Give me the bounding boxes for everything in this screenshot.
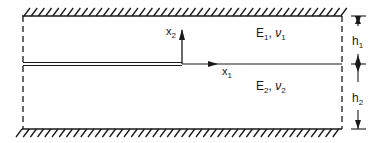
- bimaterial-diagram: x2 x1 E1, ν1 E2, ν2 h1 h2: [0, 0, 382, 143]
- material-top-label: E1, ν1: [256, 26, 286, 42]
- bottom-hatch-marks: [16, 129, 339, 137]
- x1-arrow-icon: [208, 61, 218, 67]
- x2-label: x2: [166, 25, 177, 40]
- top-hatch-marks: [24, 8, 347, 16]
- x2-arrow-icon: [179, 29, 185, 40]
- top-rigid-wall: [22, 8, 347, 16]
- x1-label: x1: [222, 65, 233, 80]
- bottom-rigid-wall: [16, 129, 342, 137]
- h1-label: h1: [352, 34, 364, 50]
- material-bottom-label: E2, ν2: [256, 79, 286, 95]
- thickness-dimensions: [351, 16, 366, 129]
- h2-label: h2: [352, 91, 364, 107]
- interface-crack: [23, 63, 182, 66]
